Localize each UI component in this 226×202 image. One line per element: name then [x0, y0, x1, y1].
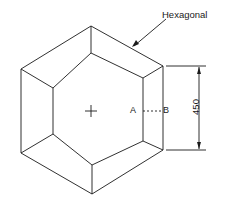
hexagonal-label: Hexagonal [162, 10, 207, 20]
point-b-label: B [163, 106, 169, 115]
point-a-label: A [130, 106, 136, 115]
center-mark-icon [85, 105, 97, 117]
dim-arrow-bottom-icon [197, 142, 201, 149]
leader-line [134, 19, 166, 46]
dim-arrow-top-icon [197, 67, 201, 74]
bevel-edges [21, 26, 163, 194]
dimension-label: 450 [191, 99, 201, 115]
leader-arrow-icon [132, 40, 139, 47]
